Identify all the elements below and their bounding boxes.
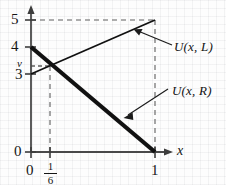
series-line-u-x-r	[31, 47, 155, 152]
curve-label-u-x-r: U(x, R)	[172, 84, 212, 97]
y-tick-label-4: 4	[11, 39, 19, 54]
fraction-denominator: 6	[44, 175, 57, 185]
annotation-arrow-line-u-x-r	[128, 89, 168, 115]
x-tick-label-one-sixth: 1 6	[44, 161, 57, 185]
y-tick-label-5: 5	[11, 12, 19, 27]
y-axis-arrowhead	[27, 5, 34, 14]
series-line-u-x-l	[31, 20, 155, 74]
x-tick-label-0: 0	[26, 163, 34, 178]
y-tick-label-3: 3	[15, 67, 23, 82]
x-axis-label: x	[177, 144, 183, 158]
x-tick-label-1: 1	[151, 163, 159, 178]
utility-chart-figure: 5 4 v 3 0 0 1 6 1 x U(x, L) U(x, R)	[0, 0, 226, 185]
fraction-numerator: 1	[44, 161, 57, 173]
annotation-arrowhead-u-x-r	[124, 113, 134, 120]
y-tick-label-0: 0	[14, 144, 22, 159]
curve-label-u-x-l: U(x, L)	[174, 40, 213, 53]
x-axis-arrowhead	[164, 148, 173, 155]
